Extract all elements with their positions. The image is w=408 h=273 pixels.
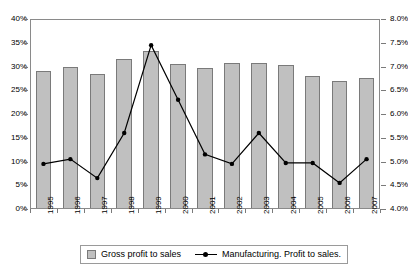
x-tick-label-2003: 2003 bbox=[263, 196, 271, 214]
x-tick-mark bbox=[30, 209, 31, 213]
y-axis-left: 0%5%10%15%20%25%30%35%40% bbox=[0, 0, 27, 273]
line-marker-1995 bbox=[41, 162, 45, 166]
line-marker-2001 bbox=[203, 152, 207, 156]
x-tick-mark bbox=[192, 209, 193, 213]
x-tick-label-1998: 1998 bbox=[128, 196, 136, 214]
y-left-tick-mark bbox=[23, 162, 28, 163]
chart-legend: Gross profit to sales Manufacturing. Pro… bbox=[80, 245, 348, 264]
y-left-tick-mark bbox=[23, 138, 28, 139]
line-marker-2007 bbox=[364, 157, 368, 161]
x-tick-label-2005: 2005 bbox=[317, 196, 325, 214]
y-left-tick-mark bbox=[23, 43, 28, 44]
x-tick-label-2007: 2007 bbox=[371, 196, 379, 214]
x-tick-mark bbox=[299, 209, 300, 213]
x-tick-mark bbox=[380, 209, 381, 213]
y-right-tick-label: 4.5% bbox=[390, 181, 408, 189]
line-path bbox=[43, 45, 366, 183]
x-tick-label-1995: 1995 bbox=[47, 196, 55, 214]
x-tick-label-2001: 2001 bbox=[209, 196, 217, 214]
line-marker-1996 bbox=[68, 157, 72, 161]
y-right-tick-mark bbox=[381, 90, 386, 91]
line-marker-2002 bbox=[230, 162, 234, 166]
x-tick-mark bbox=[353, 209, 354, 213]
y-right-tick-mark bbox=[381, 67, 386, 68]
x-tick-mark bbox=[138, 209, 139, 213]
y-right-tick-label: 4.0% bbox=[390, 205, 408, 213]
y-right-tick-label: 7.5% bbox=[390, 39, 408, 47]
y-axis-right: 4.0%4.5%5.0%5.5%6.0%6.5%7.0%7.5%8.0% bbox=[381, 0, 405, 273]
y-left-tick-mark bbox=[23, 67, 28, 68]
y-right-tick-mark bbox=[381, 43, 386, 44]
y-right-tick-mark bbox=[381, 19, 386, 20]
y-left-tick-mark bbox=[23, 185, 28, 186]
legend-label-manufacturing-profit-to-sales: Manufacturing. Profit to sales. bbox=[222, 250, 341, 259]
line-marker-2003 bbox=[257, 131, 261, 135]
y-right-tick-mark bbox=[381, 114, 386, 115]
y-left-tick-mark bbox=[23, 90, 28, 91]
line-marker-2006 bbox=[337, 181, 341, 185]
x-tick-label-2002: 2002 bbox=[236, 196, 244, 214]
y-right-tick-mark bbox=[381, 138, 386, 139]
x-tick-label-2006: 2006 bbox=[344, 196, 352, 214]
y-right-tick-label: 5.5% bbox=[390, 134, 408, 142]
y-left-tick-mark bbox=[23, 114, 28, 115]
y-right-tick-label: 5.0% bbox=[390, 158, 408, 166]
x-tick-label-1999: 1999 bbox=[155, 196, 163, 214]
y-right-tick-label: 7.0% bbox=[390, 63, 408, 71]
y-left-tick-mark bbox=[23, 19, 28, 20]
y-right-tick-mark bbox=[381, 185, 386, 186]
x-tick-mark bbox=[245, 209, 246, 213]
x-tick-mark bbox=[57, 209, 58, 213]
line-marker-2000 bbox=[176, 98, 180, 102]
y-right-tick-label: 8.0% bbox=[390, 15, 408, 23]
x-tick-mark bbox=[272, 209, 273, 213]
line-series-manufacturing-profit-to-sales bbox=[30, 19, 380, 209]
line-marker-1998 bbox=[122, 131, 126, 135]
x-tick-label-2004: 2004 bbox=[290, 196, 298, 214]
x-tick-mark bbox=[165, 209, 166, 213]
line-marker-2005 bbox=[310, 161, 314, 165]
line-marker-1997 bbox=[95, 176, 99, 180]
y-right-tick-label: 6.5% bbox=[390, 86, 408, 94]
y-right-tick-mark bbox=[381, 209, 386, 210]
x-tick-label-1996: 1996 bbox=[74, 196, 82, 214]
legend-swatch-bar-icon bbox=[87, 250, 96, 259]
legend-label-gross-profit-to-sales: Gross profit to sales bbox=[101, 250, 181, 259]
x-tick-mark bbox=[326, 209, 327, 213]
y-right-tick-mark bbox=[381, 162, 386, 163]
legend-line-marker-icon bbox=[195, 250, 217, 259]
x-tick-mark bbox=[111, 209, 112, 213]
line-marker-2004 bbox=[284, 161, 288, 165]
x-tick-mark bbox=[218, 209, 219, 213]
y-right-tick-label: 6.0% bbox=[390, 110, 408, 118]
x-tick-label-2000: 2000 bbox=[182, 196, 190, 214]
line-marker-1999 bbox=[149, 43, 153, 47]
y-left-tick-mark bbox=[23, 209, 28, 210]
x-tick-label-1997: 1997 bbox=[101, 196, 109, 214]
x-tick-mark bbox=[84, 209, 85, 213]
